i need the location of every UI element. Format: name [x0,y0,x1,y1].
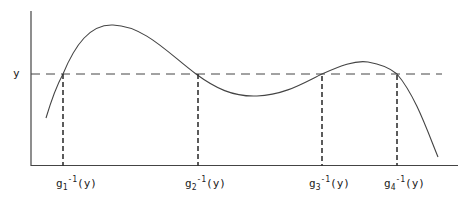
root-1-base: g [56,177,63,190]
root-2-sup: -1 [196,175,206,184]
function-curve [46,25,438,157]
root-3-base: g [309,177,316,190]
root-3-sub: 3 [316,183,321,192]
root-label-1: g1-1(y) [56,178,97,189]
root-label-2: g2-1(y) [185,178,226,189]
root-1-arg: (y) [77,177,97,190]
root-drop-lines [63,74,397,166]
root-4-sub: 4 [391,183,396,192]
root-label-4: g4-1(y) [384,178,425,189]
root-2-base: g [185,177,192,190]
root-2-arg: (y) [206,177,226,190]
root-4-arg: (y) [405,177,425,190]
root-3-arg: (y) [330,177,350,190]
root-4-sup: -1 [395,175,405,184]
root-3-sup: -1 [320,175,330,184]
root-1-sub: 1 [63,183,68,192]
root-4-base: g [384,177,391,190]
root-1-sup: -1 [67,175,77,184]
root-label-3: g3-1(y) [309,178,350,189]
y-level-label: y [13,68,20,79]
root-2-sub: 2 [192,183,197,192]
diagram-canvas [0,0,472,205]
